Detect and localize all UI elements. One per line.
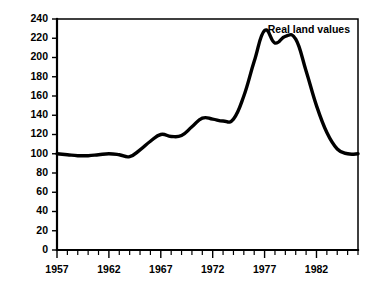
- y-tick-label-80: 80: [36, 166, 48, 178]
- x-tick-label-1972: 1972: [201, 263, 225, 275]
- y-tick-label-0: 0: [42, 243, 48, 255]
- y-tick-label-200: 200: [30, 50, 48, 62]
- y-tick-label-160: 160: [30, 89, 48, 101]
- chart-legend: Real land values: [268, 23, 350, 35]
- x-tick-label-1982: 1982: [305, 263, 329, 275]
- x-tick-label-1977: 1977: [253, 263, 277, 275]
- y-tick-label-100: 100: [30, 147, 48, 159]
- y-tick-label-120: 120: [30, 127, 48, 139]
- y-tick-label-40: 40: [36, 204, 48, 216]
- plot-frame: [57, 19, 358, 250]
- plot-frame-border: [57, 19, 358, 250]
- y-tick-label-140: 140: [30, 108, 48, 120]
- x-tick-label-1967: 1967: [149, 263, 173, 275]
- chart-container: 020406080100120140160180200220240 195719…: [0, 0, 384, 296]
- series-line-real-land-values: [57, 30, 358, 157]
- x-tick-label-1962: 1962: [97, 263, 121, 275]
- x-tick-label-1957: 1957: [45, 263, 69, 275]
- y-tick-label-180: 180: [30, 70, 48, 82]
- legend-label-real-land-values: Real land values: [268, 23, 350, 35]
- y-tick-label-60: 60: [36, 185, 48, 197]
- y-tick-label-240: 240: [30, 12, 48, 24]
- line-chart: 020406080100120140160180200220240 195719…: [0, 0, 384, 296]
- data-layer: [57, 30, 358, 157]
- x-axis-tick-labels: 195719621967197219771982: [45, 263, 328, 275]
- y-tick-label-20: 20: [36, 224, 48, 236]
- x-axis: 195719621967197219771982: [45, 250, 358, 275]
- y-axis-tick-labels: 020406080100120140160180200220240: [30, 12, 48, 255]
- y-axis: 020406080100120140160180200220240: [30, 12, 57, 255]
- y-tick-label-220: 220: [30, 31, 48, 43]
- x-axis-ticks: [57, 250, 358, 258]
